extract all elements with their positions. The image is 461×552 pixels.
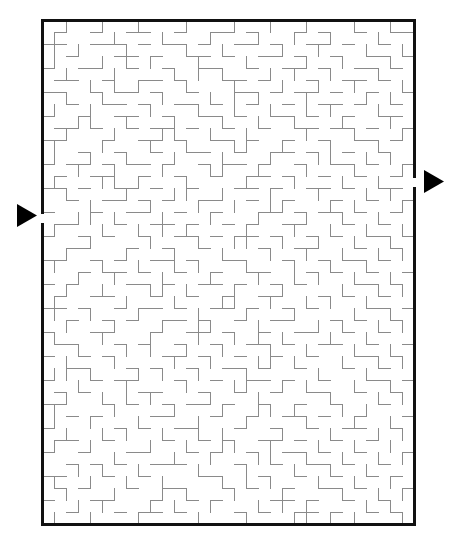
maze-page [0, 0, 461, 552]
page-background [0, 0, 461, 552]
maze-figure [0, 0, 461, 552]
maze-svg [0, 0, 461, 552]
